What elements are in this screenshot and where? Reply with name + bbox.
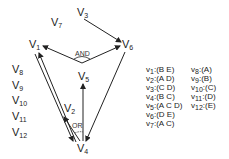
- or-arc: [75, 132, 83, 133]
- node-v10: V10: [12, 95, 27, 109]
- node-v12: V12: [12, 127, 27, 141]
- or-gate-label: OR: [72, 122, 83, 129]
- edge-v4-v1: [39, 53, 76, 142]
- diagram-canvas: V1 V2 V3 V4 V5 V6 V7 V8 V9 V10 V11 V12 A…: [0, 0, 229, 159]
- legend-item-v7: v7:(A C): [146, 119, 174, 130]
- node-v8: V8: [12, 64, 23, 78]
- node-v6: V6: [122, 39, 133, 53]
- node-v4: V4: [77, 143, 88, 157]
- node-v11: V11: [12, 111, 27, 125]
- node-v2: V2: [64, 103, 75, 117]
- node-v3: V3: [77, 7, 88, 21]
- node-v1: V1: [29, 39, 40, 53]
- legend-item-v12: v12:(E): [191, 101, 216, 112]
- node-v5: V5: [78, 71, 89, 85]
- edge-v6-v4: [86, 52, 125, 141]
- node-v9: V9: [12, 80, 23, 94]
- node-v7: V7: [51, 17, 62, 31]
- edge-v1-v4: [35, 54, 73, 141]
- edge-v4-v2: [64, 117, 80, 141]
- edge-v3-v6: [84, 19, 121, 42]
- and-gate-label: AND: [75, 50, 90, 57]
